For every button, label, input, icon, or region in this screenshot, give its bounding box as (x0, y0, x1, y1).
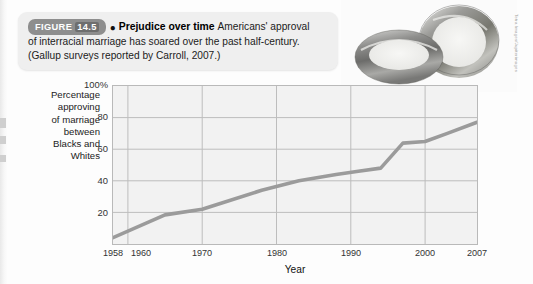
y-tick-20: 20 (98, 207, 108, 218)
x-tick-1970: 1970 (192, 248, 212, 258)
x-tick-1960: 1960 (131, 248, 151, 258)
y-tick-60: 60 (98, 143, 108, 154)
caption-title: Prejudice over time (119, 21, 215, 32)
wedding-rings-photograph (341, 0, 517, 92)
y-tick-40: 40 (98, 175, 108, 186)
y-axis-ticks: 100% 80 60 40 20 (72, 85, 108, 245)
figure-number-badge: FIGURE 14.5 (28, 19, 106, 35)
line-chart: Percentage approving of marriage between… (0, 80, 533, 284)
x-tick-1980: 1980 (267, 248, 287, 258)
caption-first-line: FIGURE 14.5●Prejudice over time American… (28, 19, 328, 35)
plot-area (112, 85, 478, 245)
y-tick-100: 100% (84, 79, 108, 90)
figure-root: FIGURE 14.5●Prejudice over time American… (0, 0, 533, 284)
figure-badge-label: FIGURE (35, 22, 72, 32)
caption-body-line-2: of interracial marriage has soared over … (28, 35, 328, 48)
bullet-icon: ● (110, 22, 116, 33)
photo-credit: Tetra Images/Jupiterimages (514, 14, 519, 72)
y-tick-80: 80 (98, 111, 108, 122)
caption-body-line-3: (Gallup surveys reported by Carroll, 200… (28, 49, 328, 62)
x-tick-1990: 1990 (341, 248, 361, 258)
plot-background (113, 86, 477, 244)
plot-svg (113, 86, 477, 244)
x-tick-1958: 1958 (103, 248, 123, 258)
x-axis-label: Year (112, 264, 478, 275)
figure-badge-number: 14.5 (75, 22, 99, 32)
x-tick-2007: 2007 (467, 248, 487, 258)
figure-caption-box: FIGURE 14.5●Prejudice over time American… (18, 12, 338, 70)
x-tick-2000: 2000 (415, 248, 435, 258)
caption-body-line-1: Americans' approval (217, 21, 309, 32)
